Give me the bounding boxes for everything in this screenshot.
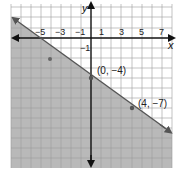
point-neg4-neg1 [48, 57, 52, 61]
point-label-b: (4, −7) [138, 98, 167, 109]
point-0-neg4 [89, 76, 93, 80]
tick-label-neg1: −1 [75, 27, 85, 37]
tick-label-3: 3 [119, 27, 124, 37]
tick-label-neg5: −5 [35, 27, 45, 37]
tick-label-neg3: −3 [55, 27, 65, 37]
point-label-a: (0, −4) [97, 65, 126, 76]
tick-label-1: 1 [99, 27, 104, 37]
graph: −5 −3 −1 1 3 5 7 −1 x y (0, −4) (4, −7) [0, 0, 180, 170]
y-axis-label: y [81, 2, 89, 14]
point-4-neg7 [130, 106, 134, 110]
tick-label-7: 7 [159, 27, 164, 37]
tick-label-y-neg1: −1 [80, 43, 90, 53]
x-axis-label: x [167, 39, 174, 51]
tick-label-5: 5 [139, 27, 144, 37]
